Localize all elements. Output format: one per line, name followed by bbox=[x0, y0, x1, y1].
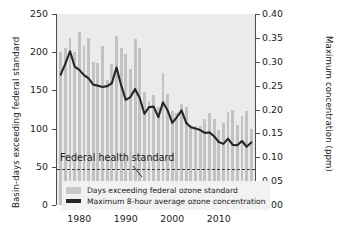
y-axis-left-tick-label: 250 bbox=[22, 8, 48, 19]
y-axis-right-tick bbox=[256, 157, 260, 158]
y-axis-left-tick bbox=[52, 205, 56, 206]
y-axis-right-tick-label: 0.25 bbox=[262, 80, 292, 91]
legend-item: Days exceeding federal ozone standard bbox=[66, 185, 265, 195]
y-axis-left-title: Basin-days exceeding federal standard bbox=[11, 37, 21, 208]
y-axis-left-tick-label: 200 bbox=[22, 46, 48, 57]
legend-item: Maximum 8-hour average ozone concentrati… bbox=[66, 196, 265, 206]
y-axis-left-tick bbox=[52, 14, 56, 15]
plot-area bbox=[57, 14, 255, 205]
y-axis-right-tick bbox=[256, 133, 260, 134]
legend-line-icon bbox=[66, 199, 81, 203]
y-axis-left-tick bbox=[52, 129, 56, 130]
x-axis-tick-label: 1980 bbox=[59, 213, 99, 224]
federal-standard-annotation: Federal health standard bbox=[60, 152, 174, 163]
legend-item-label: Maximum 8-hour average ozone concentrati… bbox=[87, 197, 265, 206]
line-series bbox=[57, 14, 255, 205]
y-axis-right-tick-label: 0.20 bbox=[262, 104, 292, 115]
y-axis-left-tick-label: 150 bbox=[22, 84, 48, 95]
left-axis-spine bbox=[56, 14, 57, 205]
ozone-trend-chart: Basin-days exceeding federal standard Ma… bbox=[0, 0, 340, 246]
y-axis-right-tick bbox=[256, 62, 260, 63]
y-axis-right-tick bbox=[256, 14, 260, 15]
x-axis-tick-label: 2010 bbox=[199, 213, 239, 224]
legend-patch-icon bbox=[66, 187, 81, 194]
chart-legend: Days exceeding federal ozone standardMax… bbox=[62, 181, 270, 210]
y-axis-left-tick bbox=[52, 167, 56, 168]
y-axis-right-tick bbox=[256, 38, 260, 39]
y-axis-left-tick bbox=[52, 90, 56, 91]
federal-standard-line bbox=[57, 169, 255, 170]
x-axis-tick-label: 1990 bbox=[106, 213, 146, 224]
y-axis-right-tick bbox=[256, 110, 260, 111]
y-axis-right-tick-label: 0.15 bbox=[262, 127, 292, 138]
y-axis-right-tick-label: 0.35 bbox=[262, 32, 292, 43]
y-axis-right-tick-label: 0.40 bbox=[262, 8, 292, 19]
x-axis-tick-label: 2000 bbox=[152, 213, 192, 224]
y-axis-right-tick-label: 0.30 bbox=[262, 56, 292, 67]
y-axis-right-tick-label: 0.10 bbox=[262, 151, 292, 162]
y-axis-right-tick bbox=[256, 86, 260, 87]
y-axis-left-tick-label: 100 bbox=[22, 123, 48, 134]
y-axis-left-tick-label: 0 bbox=[22, 199, 48, 210]
y-axis-left-tick bbox=[52, 52, 56, 53]
legend-item-label: Days exceeding federal ozone standard bbox=[87, 186, 238, 195]
y-axis-left-tick-label: 50 bbox=[22, 161, 48, 172]
y-axis-right-title: Maximum concentration (ppm) bbox=[324, 36, 334, 172]
